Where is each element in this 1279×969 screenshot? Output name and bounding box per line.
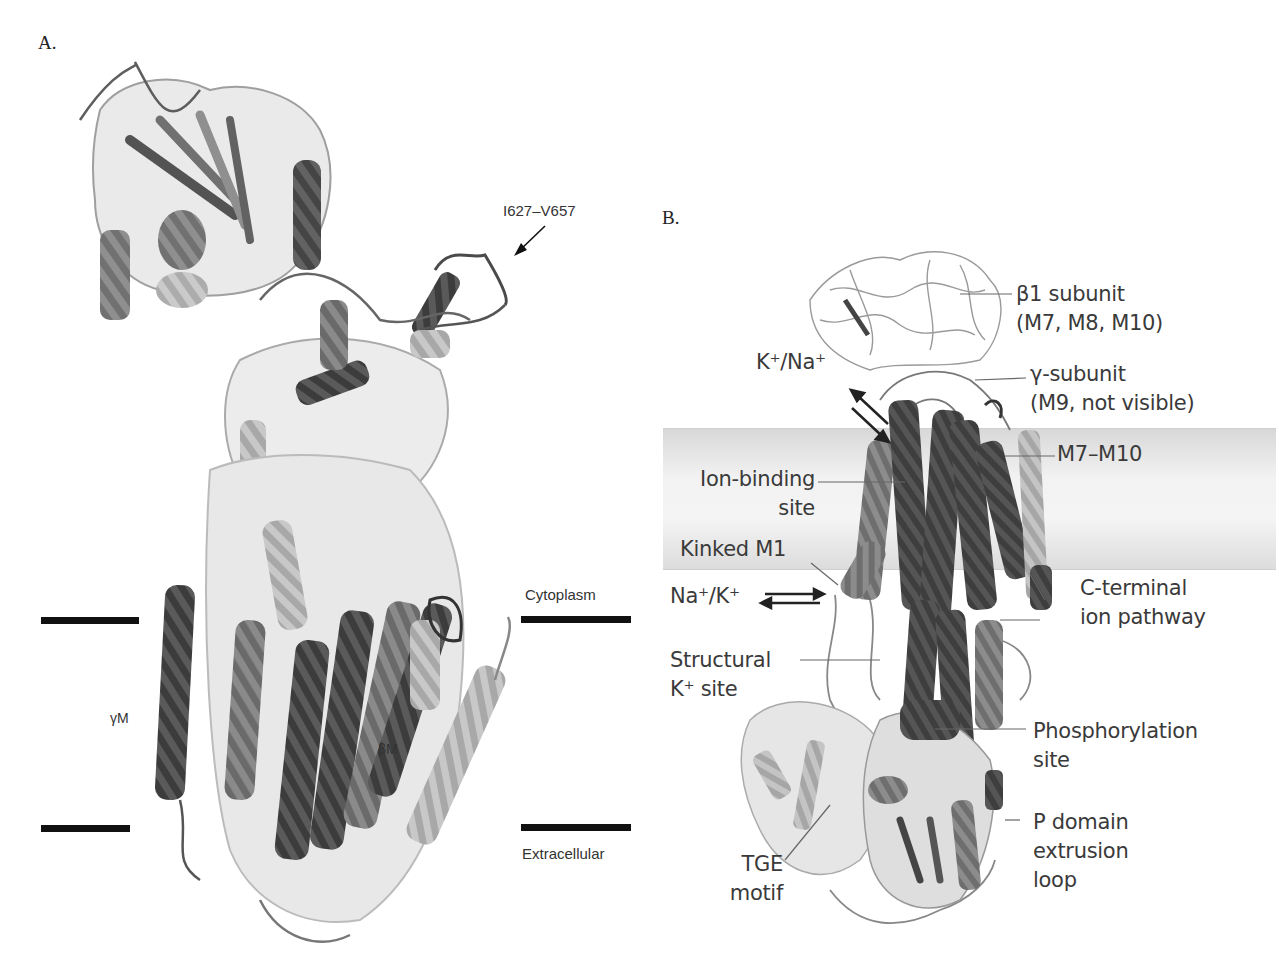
k-na-flux-arrows-icon (851, 390, 889, 442)
gamma-subunit-label: γ-subunit (M9, not visible) (1030, 360, 1194, 418)
tge-motif-label: TGE motif (700, 850, 783, 908)
k-na-flux-label: K⁺/Na⁺ (756, 348, 826, 377)
kinked-m1-label: Kinked M1 (680, 535, 786, 564)
p-domain-extrusion-loop-label: P domain extrusion loop (1033, 808, 1129, 895)
phosphorylation-site-label: Phosphorylation site (1033, 717, 1198, 775)
na-k-flux-label: Na⁺/K⁺ (670, 582, 740, 611)
structural-k-site-label: Structural K⁺ site (670, 646, 771, 704)
beta1-subunit-label: β1 subunit (M7, M8, M10) (1016, 280, 1163, 338)
m7-m10-label: M7–M10 (1057, 440, 1142, 469)
ion-binding-site-label: Ion-binding site (665, 465, 815, 523)
beta1-subunit (810, 252, 1001, 370)
na-k-flux-arrows-icon (761, 589, 824, 608)
c-terminal-ion-pathway-label: C-terminal ion pathway (1080, 574, 1206, 632)
